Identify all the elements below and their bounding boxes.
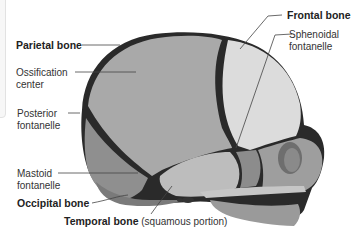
label-posterior-fontanelle-line2: fontanelle: [17, 120, 60, 131]
frontal-bone-shape: [223, 40, 301, 150]
label-posterior-fontanelle-line1: Posterior: [17, 108, 57, 119]
label-ossification-center-line2: center: [16, 79, 44, 90]
label-parietal-bone: Parietal bone: [16, 40, 82, 51]
label-occipital-bone: Occipital bone: [17, 198, 89, 209]
label-temporal-bone-note: (squamous portion): [141, 216, 227, 227]
label-ossification-center-line1: Ossification: [16, 67, 68, 78]
label-mastoid-fontanelle-line1: Mastoid: [17, 168, 52, 179]
label-sphenoidal-fontanelle-line2: fontanelle: [289, 41, 332, 52]
label-sphenoidal-fontanelle-line1: Sphenoidal: [289, 29, 339, 40]
label-temporal-bone-name: Temporal bone: [64, 215, 138, 227]
label-mastoid-fontanelle-line2: fontanelle: [17, 180, 60, 191]
label-frontal-bone: Frontal bone: [287, 10, 351, 21]
label-temporal-bone: Temporal bone (squamous portion): [64, 216, 227, 227]
